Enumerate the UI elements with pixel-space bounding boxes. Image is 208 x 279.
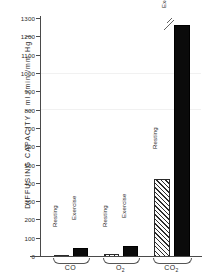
bar-label-co-resting: Resting — [52, 205, 58, 227]
diffusing-capacity-bar-chart: DIFFUSING CAPACITY ( ml./min./mm.Hg ) 0 … — [0, 0, 208, 279]
y-tick-label-500: 500 — [24, 161, 35, 168]
y-tick-200 — [36, 219, 40, 220]
y-tick-400 — [36, 183, 40, 184]
group-label-co2-sub: 2 — [176, 267, 179, 273]
group-label-o2: O2 — [103, 264, 138, 273]
y-tick-label-900: 900 — [24, 88, 35, 95]
bar-co2-exercise — [174, 25, 190, 257]
bar-label-co2-resting: Resting — [152, 127, 158, 149]
y-tick-label-700: 700 — [24, 124, 35, 131]
bar-label-co2-exercise: Exercise — [161, 0, 167, 8]
group-label-o2-sub: 2 — [122, 267, 125, 273]
y-tick-300 — [36, 201, 40, 202]
plot-area: Resting Exercise Resting Exercise Restin… — [41, 16, 201, 257]
y-tick-label-800: 800 — [24, 106, 35, 113]
y-tick-700 — [36, 128, 40, 129]
y-tick-label-200: 200 — [24, 216, 35, 223]
y-tick-1000 — [36, 73, 40, 74]
y-tick-1300 — [36, 18, 40, 19]
group-label-co: CO — [53, 264, 88, 271]
group-label-co2: CO2 — [153, 264, 190, 273]
y-tick-label-300: 300 — [24, 198, 35, 205]
y-tick-600 — [36, 146, 40, 147]
y-tick-label-600: 600 — [24, 143, 35, 150]
y-tick-label-1000: 1000 — [21, 69, 35, 76]
group-label-co2-base: CO — [164, 264, 175, 271]
y-tick-label-1100: 1100 — [21, 51, 35, 58]
y-tick-1200 — [36, 36, 40, 37]
bar-co2-resting — [154, 179, 170, 257]
bar-label-o2-exercise: Exercise — [121, 193, 127, 218]
y-axis-tick-labels: 0 100 200 300 400 500 600 700 800 900 10… — [0, 0, 35, 279]
y-tick-label-100: 100 — [24, 234, 35, 241]
y-tick-label-1300: 1300 — [21, 15, 35, 22]
y-tick-label-400: 400 — [24, 179, 35, 186]
y-tick-100 — [36, 238, 40, 239]
x-axis-baseline — [30, 256, 202, 257]
bar-label-o2-resting: Resting — [102, 205, 108, 227]
y-tick-500 — [36, 165, 40, 166]
y-tick-800 — [36, 110, 40, 111]
y-tick-900 — [36, 91, 40, 92]
y-tick-label-1200: 1200 — [21, 33, 35, 40]
y-tick-1100 — [36, 55, 40, 56]
bar-label-co-exercise: Exercise — [71, 195, 77, 220]
